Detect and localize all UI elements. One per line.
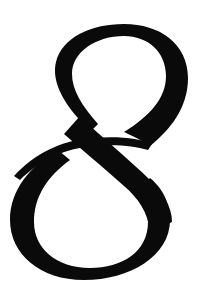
glyph-canvas: 8 bbox=[0, 0, 204, 296]
numeral-eight-icon bbox=[0, 0, 204, 296]
